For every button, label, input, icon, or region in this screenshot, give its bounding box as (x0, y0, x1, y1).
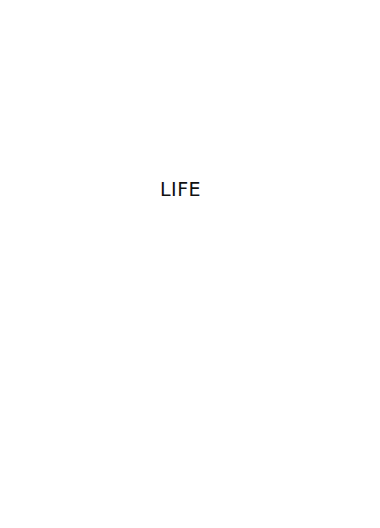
document-page: LIFE (0, 0, 380, 528)
section-title: LIFE (160, 177, 201, 201)
